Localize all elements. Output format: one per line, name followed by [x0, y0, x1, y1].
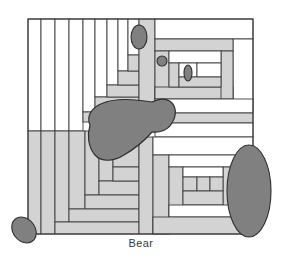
bear-eye-oval [157, 56, 167, 66]
patch-strip-left-2 [41, 19, 55, 131]
patch-muzzle-white-1 [169, 51, 221, 63]
patch-body-strip-3 [55, 131, 69, 222]
patch-paw-cell-2 [197, 177, 210, 191]
bear-ear-oval [131, 25, 147, 49]
patch-body-step-3 [69, 209, 139, 222]
patch-body-step-2 [85, 195, 139, 209]
quilt-block-illustration [0, 0, 282, 266]
patch-body-strip-4 [69, 131, 85, 209]
patch-head-top-white [155, 19, 253, 39]
patch-head-right-gray [221, 51, 233, 99]
patch-body-step-4 [55, 222, 139, 234]
patch-strip-left-5 [83, 19, 95, 112]
patch-step-gray-3 [107, 85, 139, 97]
patch-step-gray-4 [118, 71, 139, 85]
patch-hind-inner-white [183, 167, 223, 177]
patch-center-divider [139, 137, 153, 234]
bear-nose-oval [184, 65, 192, 81]
patch-muzzle-cell-2 [197, 63, 221, 77]
patch-body-step-1 [99, 181, 139, 195]
patch-body-strip-2 [41, 131, 55, 234]
patch-inner-step-a [113, 167, 139, 181]
patch-strip-left-6 [95, 19, 107, 97]
patch-strip-left-8 [118, 19, 128, 71]
patch-body-left-gray [28, 131, 41, 234]
patch-paw-cell-3 [210, 177, 223, 191]
patch-step-gray-5 [128, 55, 139, 71]
patch-paw-cell-1 [183, 177, 197, 191]
patch-strip-left-3 [55, 19, 69, 131]
quilt-block-figure: Bear [0, 0, 282, 266]
patch-muzzle-left-gray [169, 63, 179, 87]
patch-hind-inner-bottom [183, 191, 223, 205]
patch-strip-left-7 [107, 19, 118, 85]
patch-strip-left-4 [69, 19, 83, 131]
patch-head-gray-outer [155, 39, 233, 51]
bear-haunch-oval [227, 145, 271, 237]
figure-caption: Bear [0, 237, 282, 249]
patch-hind-white-3 [169, 205, 237, 217]
patch-strip-left-1 [28, 19, 41, 131]
